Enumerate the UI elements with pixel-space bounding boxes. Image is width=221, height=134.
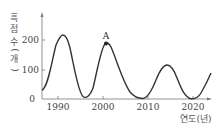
y-axis-title-char: )	[10, 68, 20, 72]
point-a-label: A	[102, 31, 110, 41]
y-axis-arrow-icon	[41, 12, 44, 17]
x-tick-label-2000: 2000	[92, 102, 115, 112]
x-tick-label-1990: 1990	[47, 102, 70, 112]
y-axis-title-char: 점	[10, 23, 18, 34]
sunspot-chart: 0 100 200 1990 2000 2010 2020 연도(년) 흑 점 …	[0, 0, 221, 134]
y-axis-title-char: (	[10, 48, 20, 52]
x-tick-label-2020: 2020	[182, 102, 205, 112]
y-axis-title-char: 흑	[10, 12, 18, 23]
y-axis-title: 흑 점 수 ( 개 )	[10, 12, 20, 72]
x-tick-label-2010: 2010	[137, 102, 160, 112]
point-a-marker	[104, 42, 108, 46]
y-axis-title-char: 수	[10, 37, 18, 47]
x-axis-title: 연도(년)	[180, 114, 211, 124]
y-tick-label-0: 0	[29, 94, 35, 104]
y-axis-title-char: 개	[10, 54, 18, 64]
y-tick-label-100: 100	[22, 65, 39, 75]
x-axis-arrow-icon	[207, 98, 212, 101]
y-tick-label-200: 200	[22, 35, 39, 45]
sunspot-curve	[42, 35, 211, 99]
